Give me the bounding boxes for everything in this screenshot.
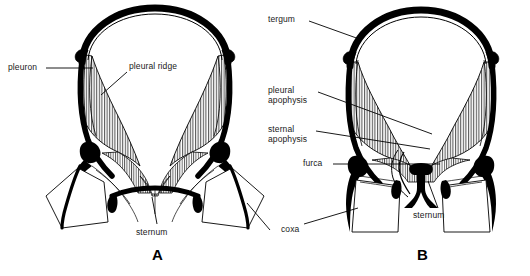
panel-b-sternum-top-block xyxy=(409,163,433,175)
label-pleural-ridge: pleural ridge xyxy=(129,62,177,72)
label-tergum: tergum xyxy=(268,15,295,25)
label-sternum-panel-b: sternum xyxy=(413,211,444,221)
label-sternal-apophysis-line1: sternal xyxy=(268,124,294,134)
label-furca: furca xyxy=(303,159,322,169)
label-pleural-apophysis-line1: pleural xyxy=(268,85,294,95)
label-pleuron: pleuron xyxy=(8,63,37,73)
figure-page: pleuron pleural ridge sternum tergum ple… xyxy=(0,0,530,276)
label-pleural-apophysis-line2: apophysis xyxy=(268,95,307,105)
label-pleural-apophysis: pleural apophysis xyxy=(268,86,328,105)
label-sternal-apophysis: sternal apophysis xyxy=(268,125,328,144)
caption-fragment xyxy=(6,272,206,276)
label-coxa: coxa xyxy=(281,225,299,235)
label-sternum-panel-a: sternum xyxy=(136,228,167,238)
anatomy-figure-svg xyxy=(0,0,530,276)
panel-letter-b: B xyxy=(417,246,428,263)
label-sternal-apophysis-line2: apophysis xyxy=(268,134,307,144)
panel-letter-a: A xyxy=(152,246,163,263)
